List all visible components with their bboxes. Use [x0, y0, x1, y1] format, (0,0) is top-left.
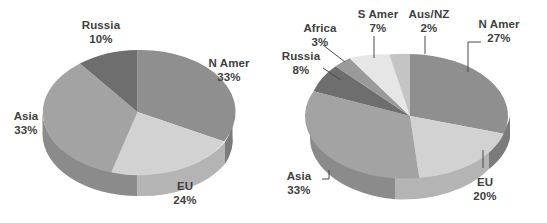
- right-label-africa: Africa 3%: [293, 22, 347, 49]
- left-pie-chart: Russia 10% N Amer 33% Asia 33% EU 24%: [0, 0, 273, 223]
- right-label-russia-name: Russia: [273, 50, 329, 64]
- right-label-ausnz-name: Aus/NZ: [404, 8, 454, 22]
- right-label-samer-name: S Amer: [353, 8, 403, 22]
- left-label-eu-name: EU: [158, 180, 212, 194]
- left-label-namer-name: N Amer: [198, 57, 260, 71]
- left-label-russia-name: Russia: [68, 19, 134, 33]
- left-label-asia-value: 33%: [2, 124, 50, 138]
- pie-chart-figure: Russia 10% N Amer 33% Asia 33% EU 24%: [0, 0, 547, 223]
- left-label-eu: EU 24%: [158, 180, 212, 207]
- right-label-eu: EU 20%: [464, 176, 506, 203]
- right-label-russia-value: 8%: [273, 64, 329, 78]
- right-label-asia: Asia 33%: [277, 170, 321, 197]
- right-label-asia-name: Asia: [277, 170, 321, 184]
- right-label-ausnz: Aus/NZ 2%: [404, 8, 454, 35]
- left-label-russia: Russia 10%: [68, 19, 134, 46]
- right-label-africa-name: Africa: [293, 22, 347, 36]
- right-pie-chart: Africa 3% S Amer 7% Aus/NZ 2% N Amer 27%…: [273, 0, 547, 223]
- right-label-samer-value: 7%: [353, 22, 403, 36]
- left-label-namer: N Amer 33%: [198, 57, 260, 84]
- left-label-asia: Asia 33%: [2, 110, 50, 137]
- right-label-namer-name: N Amer: [470, 18, 528, 32]
- right-label-namer: N Amer 27%: [470, 18, 528, 45]
- right-label-namer-value: 27%: [470, 32, 528, 46]
- left-label-eu-value: 24%: [158, 194, 212, 208]
- right-label-russia: Russia 8%: [273, 50, 329, 77]
- left-label-namer-value: 33%: [198, 71, 260, 85]
- right-label-africa-value: 3%: [293, 36, 347, 50]
- right-label-asia-value: 33%: [277, 184, 321, 198]
- left-label-asia-name: Asia: [2, 110, 50, 124]
- right-label-eu-value: 20%: [464, 190, 506, 204]
- right-label-samer: S Amer 7%: [353, 8, 403, 35]
- right-label-ausnz-value: 2%: [404, 22, 454, 36]
- right-label-eu-name: EU: [464, 176, 506, 190]
- left-label-russia-value: 10%: [68, 33, 134, 47]
